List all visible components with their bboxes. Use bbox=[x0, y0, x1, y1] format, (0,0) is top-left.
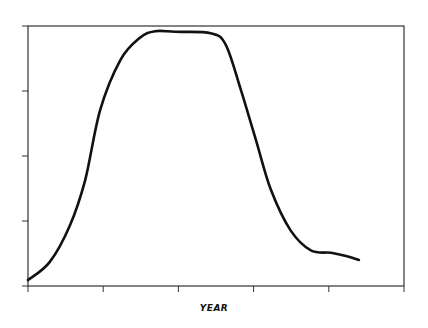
x-axis-ticks bbox=[28, 286, 404, 292]
line-chart bbox=[0, 0, 428, 328]
data-line bbox=[28, 31, 359, 280]
y-axis-ticks bbox=[22, 26, 28, 286]
x-axis-label: YEAR bbox=[0, 303, 428, 313]
plot-frame bbox=[28, 26, 404, 286]
